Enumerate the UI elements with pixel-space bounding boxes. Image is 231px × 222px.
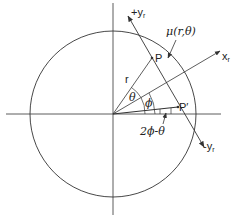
minus-y-r-label: -yr <box>203 140 215 153</box>
plus-y-r-label: +yr <box>131 6 146 19</box>
mu-label: μ(r,θ) <box>166 25 196 38</box>
phi-label: ϕ <box>145 97 153 110</box>
angle-expr-pointer-arrow <box>163 113 166 124</box>
radius-label: r <box>125 73 129 85</box>
point-p-label: P <box>155 52 162 64</box>
y-r-axis-plus <box>128 16 165 80</box>
x-r-label: xr <box>222 50 231 63</box>
point-p-dot <box>151 57 154 60</box>
angle-expression-label: 2ϕ-θ <box>139 125 165 138</box>
rotated-frame-diagram: +yr xr -yr μ(r,θ) P P′ r θ ϕ 2ϕ-θ <box>0 0 231 222</box>
theta-label: θ <box>129 91 136 104</box>
point-p-prime-label: P′ <box>179 101 188 113</box>
